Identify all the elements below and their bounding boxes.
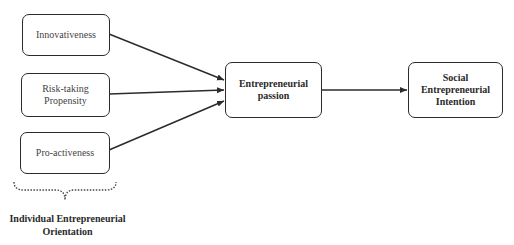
node-entrepreneurial-passion: Entrepreneurial passion bbox=[225, 62, 322, 118]
node-label: Pro-activeness bbox=[36, 147, 94, 159]
edge-risk-taking-to-passion bbox=[109, 90, 224, 94]
node-innovativeness: Innovativeness bbox=[22, 14, 110, 56]
node-social-entrepreneurial-intention: Social Entrepreneurial Intention bbox=[408, 62, 503, 118]
edge-innovativeness-to-passion bbox=[109, 34, 224, 80]
node-label-line: Social bbox=[421, 72, 490, 84]
node-pro-activeness: Pro-activeness bbox=[20, 132, 110, 174]
node-risk-taking-propensity: Risk-taking Propensity bbox=[21, 73, 110, 117]
node-label-line: passion bbox=[239, 90, 308, 102]
group-label-line: Individual Entrepreneurial bbox=[0, 213, 135, 226]
node-label: Innovativeness bbox=[36, 29, 96, 41]
node-label-line: Entrepreneurial bbox=[239, 78, 308, 90]
node-label-line: Intention bbox=[421, 96, 490, 108]
node-label-line: Propensity bbox=[42, 95, 89, 107]
curly-brace-icon bbox=[14, 182, 116, 200]
node-label-line: Risk-taking bbox=[42, 83, 89, 95]
group-label-individual-entrepreneurial-orientation: Individual Entrepreneurial Orientation bbox=[0, 213, 135, 238]
node-label-line: Entrepreneurial bbox=[421, 84, 490, 96]
group-label-line: Orientation bbox=[0, 226, 135, 239]
edge-pro-activeness-to-passion bbox=[109, 101, 224, 150]
